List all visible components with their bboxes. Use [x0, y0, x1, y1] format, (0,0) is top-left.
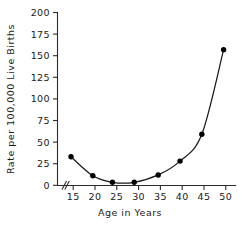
x-axis-title: Age in Years: [98, 207, 162, 218]
data-point-group: [68, 47, 226, 185]
y-tick-label: 200: [31, 7, 50, 18]
y-tick-label: 100: [31, 93, 50, 104]
x-tick-label: 30: [132, 191, 145, 202]
x-tick-label: 45: [198, 191, 211, 202]
y-tick-label: 0: [44, 180, 50, 191]
y-tick-label: 175: [31, 29, 50, 40]
data-point: [221, 47, 226, 52]
y-axis-title: Rate per 100,000 Live Births: [5, 24, 16, 174]
data-point: [199, 132, 204, 137]
y-tick-label: 125: [31, 72, 50, 83]
x-tick-label: 15: [67, 191, 80, 202]
x-tick-label: 35: [154, 191, 167, 202]
data-point: [177, 158, 182, 163]
x-tick-label: 50: [219, 191, 232, 202]
data-point: [132, 180, 137, 185]
data-point: [68, 154, 73, 159]
line-chart: 200 175 150 125 100 75 50 25 0: [0, 0, 242, 226]
x-tick-label: 20: [89, 191, 102, 202]
y-tick-label: 50: [37, 137, 50, 148]
data-point: [90, 173, 95, 178]
x-axis-tick-labels: 15 20 25 30 35 40 45 50: [67, 191, 232, 202]
y-axis-tick-labels: 200 175 150 125 100 75 50 25 0: [31, 7, 50, 191]
x-tick-label: 25: [110, 191, 123, 202]
y-axis-ticks: [53, 13, 58, 186]
y-tick-label: 75: [37, 115, 50, 126]
y-tick-label: 25: [37, 158, 50, 169]
data-curve: [71, 50, 224, 183]
data-point: [110, 180, 115, 185]
chart-figure: 200 175 150 125 100 75 50 25 0: [0, 0, 242, 226]
x-tick-label: 40: [176, 191, 189, 202]
y-tick-label: 150: [31, 50, 50, 61]
x-axis-ticks: [73, 186, 226, 191]
data-point: [156, 172, 161, 177]
